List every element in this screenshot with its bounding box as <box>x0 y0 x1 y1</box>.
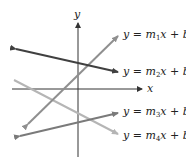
eq-x: x <box>160 65 166 78</box>
eq-y: y <box>123 129 129 142</box>
eq-x: x <box>160 28 166 41</box>
eq-m: m <box>145 28 155 41</box>
eq-b: b <box>183 28 186 41</box>
line-1-label: y = m1x + b1 <box>123 29 186 44</box>
eq-m: m <box>145 65 155 78</box>
eq-plus: + <box>170 65 179 78</box>
eq-equals: = <box>133 105 142 118</box>
eq-m: m <box>145 105 155 118</box>
eq-b: b <box>183 105 186 118</box>
line-2-label: y = m2x + b2 <box>123 66 186 81</box>
eq-m: m <box>145 129 155 142</box>
eq-plus: + <box>170 105 179 118</box>
eq-x: x <box>160 129 166 142</box>
line-4-label: y = m4x + b4 <box>123 130 186 145</box>
eq-equals: = <box>133 65 142 78</box>
eq-y: y <box>123 105 129 118</box>
eq-y: y <box>123 65 129 78</box>
eq-b: b <box>183 65 186 78</box>
eq-equals: = <box>133 28 142 41</box>
eq-plus: + <box>170 129 179 142</box>
eq-b: b <box>183 129 186 142</box>
x-axis-label: x <box>147 83 153 94</box>
eq-equals: = <box>133 129 142 142</box>
y-axis-label: y <box>74 9 80 20</box>
eq-y: y <box>123 28 129 41</box>
line-3-label: y = m3x + b3 <box>123 106 186 121</box>
eq-plus: + <box>170 28 179 41</box>
line-2 <box>16 49 118 72</box>
eq-x: x <box>160 105 166 118</box>
